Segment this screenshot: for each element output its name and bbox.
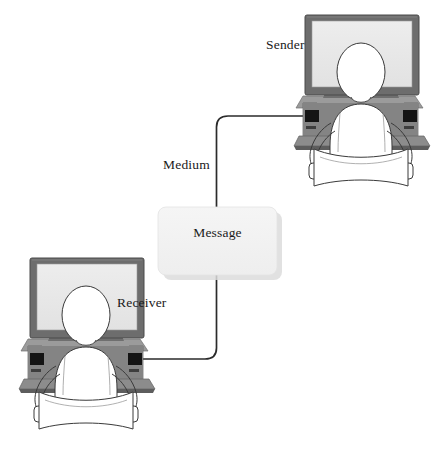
message-label: Message <box>158 225 277 241</box>
medium-label: Medium <box>163 157 210 173</box>
communication-model-diagram: Sender Receiver Medium Message <box>0 0 434 452</box>
receiver-workstation <box>19 258 155 429</box>
sender-drive-slot-left <box>305 110 319 122</box>
receiver-label: Receiver <box>117 295 167 311</box>
sender-drive-slot-right <box>403 110 417 122</box>
message-box <box>158 207 282 280</box>
sender-workstation <box>294 15 430 186</box>
receiver-drive-slot-left <box>30 353 44 365</box>
edge-medium-upper <box>217 116 308 207</box>
sender-label: Sender <box>266 37 305 53</box>
receiver-drive-slot-right <box>128 353 142 365</box>
